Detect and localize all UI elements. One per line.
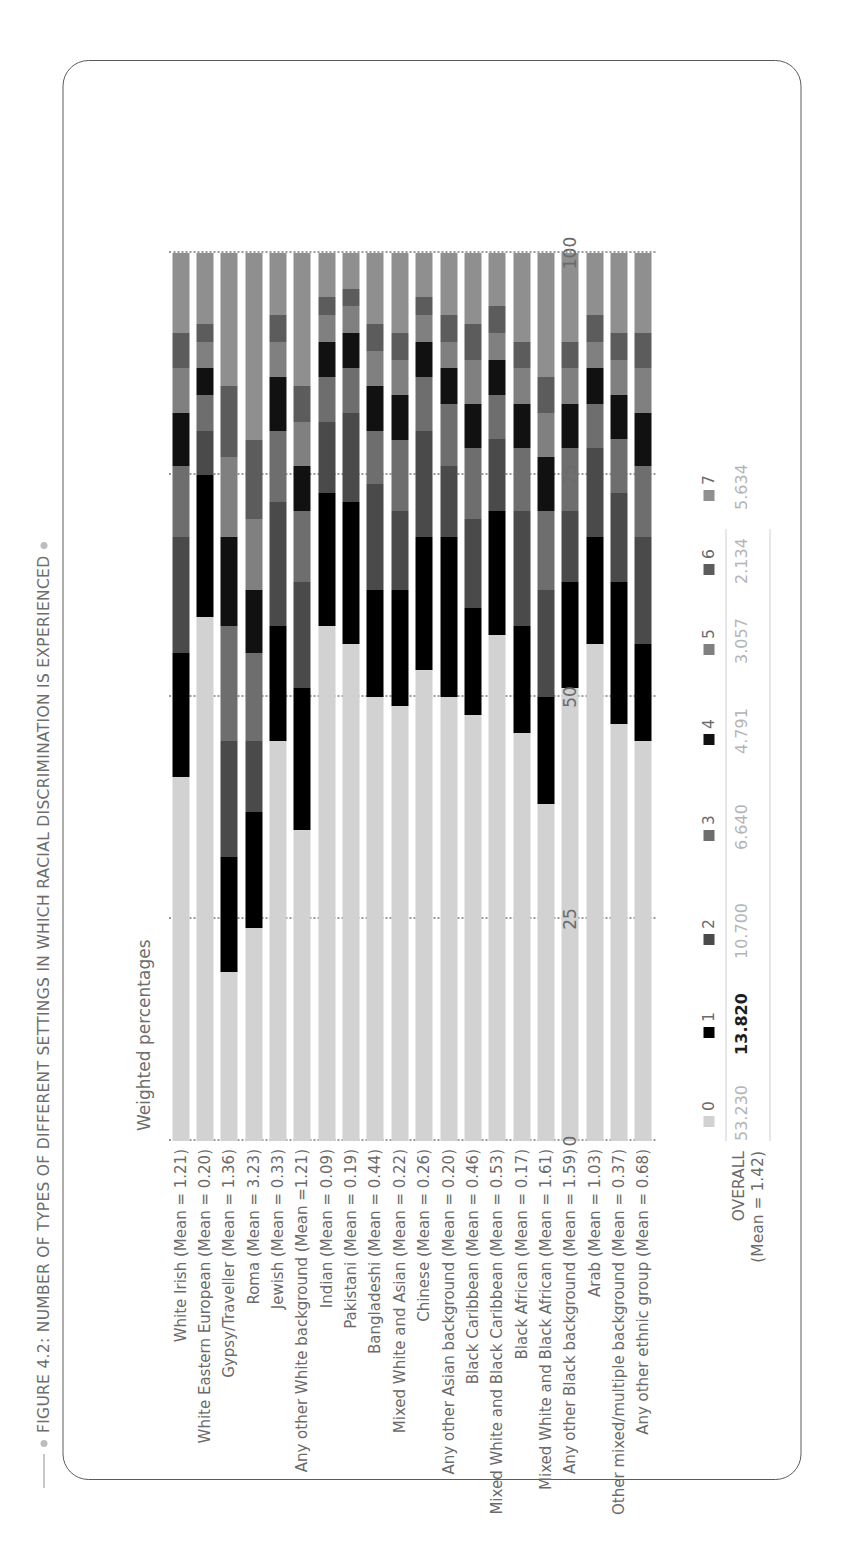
bar-segment-5 xyxy=(318,315,335,342)
bar-row[interactable] xyxy=(586,253,603,1141)
bar-segment-2 xyxy=(464,519,481,608)
overall-title: OVERALL xyxy=(729,1151,748,1329)
stacked-bar xyxy=(464,253,481,1141)
bar-segment-3 xyxy=(537,511,554,591)
bar-segment-3 xyxy=(172,466,189,537)
bar-segment-6 xyxy=(220,386,237,457)
bar-segment-6 xyxy=(391,333,408,360)
bar-row[interactable] xyxy=(366,253,383,1141)
stacked-bar xyxy=(586,253,603,1141)
bar-row[interactable] xyxy=(220,253,237,1141)
stacked-bar xyxy=(415,253,432,1141)
bar-row[interactable] xyxy=(342,253,359,1141)
x-axis-label: Weighted percentages xyxy=(133,939,153,1131)
bar-segment-7 xyxy=(537,253,554,377)
stacked-bar xyxy=(196,253,213,1141)
bar-segment-6 xyxy=(245,440,262,520)
bar-row[interactable] xyxy=(634,253,651,1141)
legend-item-0[interactable]: 0 xyxy=(699,1101,717,1127)
bar-segment-5 xyxy=(172,368,189,412)
bar-segment-5 xyxy=(342,306,359,333)
bar-segment-3 xyxy=(586,404,603,448)
bar-segment-3 xyxy=(634,466,651,537)
legend-label: 7 xyxy=(699,475,717,485)
bar-segment-0 xyxy=(586,644,603,1141)
bar-segment-4 xyxy=(269,377,286,430)
bar-segment-0 xyxy=(391,706,408,1141)
bar-segment-0 xyxy=(440,697,457,1141)
overall-value-1: 13.820 xyxy=(731,993,750,1055)
bar-segment-0 xyxy=(220,972,237,1141)
bar-row[interactable] xyxy=(293,253,310,1141)
category-label: Black Caribbean (Mean = 0.46) xyxy=(464,1149,481,1384)
bar-row[interactable] xyxy=(440,253,457,1141)
legend-swatch-0 xyxy=(703,1116,714,1127)
overall-value-3: 6.640 xyxy=(731,804,750,850)
legend-item-4[interactable]: 4 xyxy=(699,719,717,745)
legend-label: 6 xyxy=(699,549,717,559)
bar-segment-3 xyxy=(269,431,286,502)
legend-item-7[interactable]: 7 xyxy=(699,475,717,501)
overall-value-6: 2.134 xyxy=(731,538,750,584)
plot-area xyxy=(168,253,655,1141)
title-bullet-left-icon xyxy=(40,1440,47,1447)
bar-row[interactable] xyxy=(464,253,481,1141)
bar-segment-5 xyxy=(245,519,262,590)
bar-segment-5 xyxy=(537,413,554,457)
stacked-bar xyxy=(513,253,530,1141)
legend-swatch-2 xyxy=(703,934,714,945)
bar-segment-1 xyxy=(366,590,383,697)
bar-row[interactable] xyxy=(391,253,408,1141)
gridline-50 xyxy=(168,695,655,697)
bar-segment-2 xyxy=(610,493,627,582)
bar-row[interactable] xyxy=(415,253,432,1141)
bar-row[interactable] xyxy=(318,253,335,1141)
bar-segment-4 xyxy=(318,342,335,378)
bar-row[interactable] xyxy=(245,253,262,1141)
overall-value-2: 10.700 xyxy=(731,903,750,959)
bar-segment-6 xyxy=(488,306,505,333)
bar-segment-4 xyxy=(513,404,530,448)
figure-page: FIGURE 4.2: NUMBER OF TYPES OF DIFFERENT… xyxy=(0,0,859,1550)
bar-segment-5 xyxy=(196,342,213,369)
bar-segment-1 xyxy=(269,626,286,741)
bar-segment-6 xyxy=(464,324,481,360)
legend-item-5[interactable]: 5 xyxy=(699,629,717,655)
legend-item-3[interactable]: 3 xyxy=(699,815,717,841)
bar-segment-2 xyxy=(561,511,578,582)
bar-segment-7 xyxy=(440,253,457,315)
bar-row[interactable] xyxy=(488,253,505,1141)
bar-segment-4 xyxy=(440,368,457,404)
legend-rule-bottom xyxy=(769,529,770,1141)
bar-segment-4 xyxy=(245,590,262,652)
bar-segment-7 xyxy=(610,253,627,333)
legend-item-6[interactable]: 6 xyxy=(699,549,717,575)
bar-row[interactable] xyxy=(610,253,627,1141)
bar-segment-4 xyxy=(172,413,189,466)
bar-segment-7 xyxy=(391,253,408,333)
bar-segment-4 xyxy=(342,333,359,369)
bar-segment-2 xyxy=(196,431,213,475)
bar-row[interactable] xyxy=(172,253,189,1141)
category-label: Black African (Mean = 0.17) xyxy=(513,1149,530,1359)
bar-row[interactable] xyxy=(537,253,554,1141)
bar-segment-2 xyxy=(269,502,286,626)
bar-segment-1 xyxy=(464,608,481,715)
bar-row[interactable] xyxy=(196,253,213,1141)
bar-segment-1 xyxy=(293,688,310,830)
bar-segment-0 xyxy=(245,928,262,1141)
legend-item-2[interactable]: 2 xyxy=(699,919,717,945)
bar-segment-3 xyxy=(245,653,262,742)
bar-segment-0 xyxy=(366,697,383,1141)
category-label: Indian (Mean = 0.09) xyxy=(318,1149,335,1308)
stacked-bar xyxy=(391,253,408,1141)
legend-item-1[interactable]: 1 xyxy=(699,1012,717,1038)
bar-segment-6 xyxy=(634,333,651,369)
bar-row[interactable] xyxy=(513,253,530,1141)
bar-segment-5 xyxy=(464,360,481,404)
bar-row[interactable] xyxy=(269,253,286,1141)
bar-segment-7 xyxy=(196,253,213,324)
bar-segment-5 xyxy=(220,457,237,537)
legend-label: 5 xyxy=(699,629,717,639)
overall-value-5: 3.057 xyxy=(731,618,750,664)
